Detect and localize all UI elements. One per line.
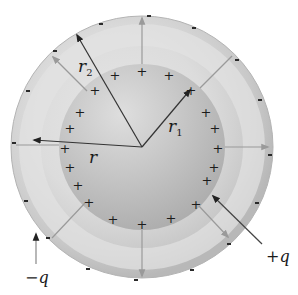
spherical-capacitor-diagram: + + + + + + + + + + + + + + + + + + + + (0, 0, 298, 295)
svg-text:+: + (202, 173, 213, 188)
svg-text:+: + (213, 141, 224, 156)
svg-text:+: + (137, 217, 148, 232)
svg-text:+: + (65, 160, 76, 175)
svg-text:+: + (65, 121, 76, 136)
svg-text:+: + (166, 211, 177, 226)
svg-text:+: + (210, 121, 221, 136)
minus-q-label: −q (25, 268, 49, 287)
svg-text:+: + (137, 64, 148, 79)
svg-text:+: + (75, 105, 86, 120)
svg-text:+: + (164, 68, 175, 83)
r-label: r (89, 147, 98, 167)
svg-text:+: + (186, 83, 197, 98)
svg-text:+: + (73, 178, 84, 193)
svg-text:+: + (90, 83, 101, 98)
svg-text:+: + (84, 195, 95, 210)
svg-text:+: + (191, 197, 202, 212)
plus-q-label: +q (266, 247, 290, 266)
svg-text:+: + (201, 105, 212, 120)
svg-text:+: + (110, 68, 121, 83)
svg-text:+: + (60, 141, 71, 156)
svg-text:+: + (108, 212, 119, 227)
